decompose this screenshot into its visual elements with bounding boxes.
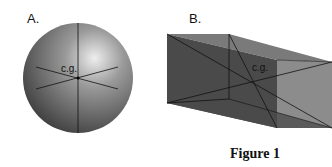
figure-drawing: c.g. c.g. (0, 0, 332, 167)
box-diagram: c.g. (167, 34, 332, 128)
sphere-diagram: c.g. (23, 23, 133, 133)
box-cg-label: c.g. (252, 62, 268, 73)
sphere-cg-label: c.g. (61, 63, 77, 74)
figure-caption: Figure 1 (230, 146, 280, 162)
sphere-cg-point (77, 77, 80, 80)
